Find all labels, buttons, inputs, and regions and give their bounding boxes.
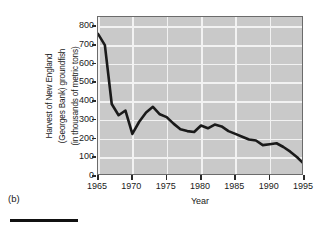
y-axis-tick-labels: 0100200300400500600700800 (66, 16, 94, 176)
figure-panel-b: Harvest of New England (Georges Bank) gr… (0, 0, 326, 229)
y-axis-tick-mark (92, 156, 96, 158)
x-axis-tick-mark (166, 175, 168, 180)
y-axis-tick-mark (92, 100, 96, 102)
x-axis-tick-label: 1985 (224, 181, 244, 191)
x-axis-tick-label: 1990 (259, 181, 279, 191)
x-axis-tick-mark (234, 175, 236, 180)
y-axis-tick-mark (92, 44, 96, 46)
panel-letter: (b) (8, 193, 20, 204)
y-axis-tick-mark (92, 25, 96, 27)
y-axis-tick-mark (92, 138, 96, 140)
x-axis-tick-mark (269, 175, 271, 180)
x-axis-tick-label: 1995 (293, 181, 313, 191)
y-axis-tick-mark (92, 81, 96, 83)
x-axis-tick-label: 1970 (121, 181, 141, 191)
x-axis-tick-labels: 1965197019751980198519901995 (0, 181, 326, 195)
bottom-rule (10, 219, 78, 222)
y-axis-tick-mark (92, 63, 96, 65)
x-axis-tick-mark (97, 175, 99, 180)
x-axis-tick-label: 1980 (190, 181, 210, 191)
x-axis-tick-label: 1975 (156, 181, 176, 191)
y-axis-tick-mark (92, 175, 96, 177)
x-axis-tick-mark (200, 175, 202, 180)
plot-area (97, 16, 303, 175)
x-axis-title: Year (97, 196, 303, 206)
x-axis-tick-mark (303, 175, 305, 180)
harvest-line-series (98, 17, 303, 175)
y-axis-tick-mark (92, 119, 96, 121)
x-axis-tick-mark (131, 175, 133, 180)
x-axis-tick-label: 1965 (87, 181, 107, 191)
